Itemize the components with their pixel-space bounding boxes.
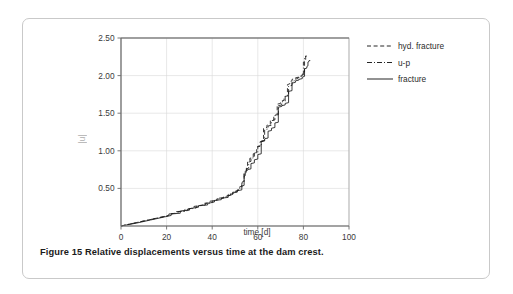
chart-plot: 020406080100 0.501.001.502.002.50 hyd. f… (23, 19, 491, 244)
y-tick-label: 1.00 (98, 146, 115, 156)
figure-card: 020406080100 0.501.001.502.002.50 hyd. f… (22, 18, 490, 279)
legend-label: fracture (398, 74, 427, 84)
legend-label: hyd. fracture (398, 41, 445, 51)
series-line-u-p (121, 56, 307, 226)
legend-label: u-p (398, 58, 410, 68)
chart-region: 020406080100 0.501.001.502.002.50 hyd. f… (23, 19, 491, 244)
gridlines-group (121, 38, 349, 226)
x-tick-label: 40 (208, 232, 218, 242)
y-tick-label: 2.00 (98, 71, 115, 81)
y-tick-labels-group: 0.501.001.502.002.50 (98, 33, 115, 193)
y-tick-label: 1.50 (98, 108, 115, 118)
axes-group (118, 38, 350, 230)
y-tick-label: 2.50 (98, 33, 115, 43)
legend: hyd. fractureu-pfracture (367, 41, 445, 84)
y-axis-title: |u| (77, 135, 87, 144)
x-tick-label: 100 (342, 232, 356, 242)
y-tick-label: 0.50 (98, 183, 115, 193)
series-line-fracture (121, 61, 310, 226)
x-tick-label: 20 (162, 232, 172, 242)
x-tick-label: 80 (299, 232, 309, 242)
series-group (121, 56, 310, 226)
x-axis-title: time [d] (243, 227, 270, 237)
x-tick-labels-group: 020406080100 (119, 232, 357, 242)
figure-caption: Figure 15 Relative displacements versus … (40, 247, 480, 257)
plot-frame (121, 38, 349, 226)
x-tick-label: 0 (119, 232, 124, 242)
